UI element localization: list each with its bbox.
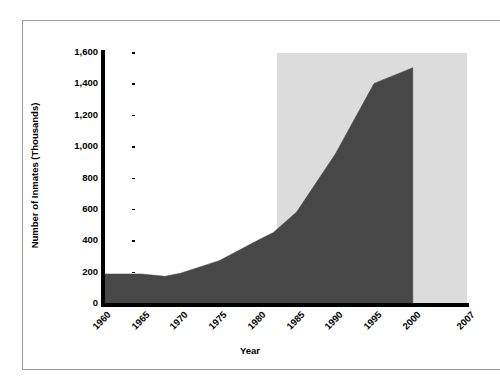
x-tick-label: 1975 (193, 309, 229, 345)
x-axis-title: Year (0, 345, 500, 356)
x-tick-label: 1985 (270, 309, 306, 345)
y-tick-mark (132, 303, 135, 305)
x-axis-line (101, 303, 469, 307)
y-axis-title: Number of Inmates (Thousands) (29, 76, 40, 276)
chart-figure: 02004006008001,0001,2001,4001,600 196019… (0, 0, 500, 377)
x-tick-label: 1970 (154, 309, 190, 345)
x-tick-label: 1995 (348, 309, 384, 345)
x-tick-label: 2007 (441, 309, 477, 345)
y-tick-mark (132, 83, 135, 85)
y-tick-mark (132, 115, 135, 117)
y-tick-label: 1,200 (38, 110, 98, 120)
y-tick-label: 600 (38, 204, 98, 214)
y-tick-mark (132, 209, 135, 211)
x-tick-label: 1990 (309, 309, 345, 345)
y-axis-line (101, 50, 105, 304)
y-tick-mark (132, 178, 135, 180)
y-tick-label: 400 (38, 235, 98, 245)
y-tick-mark (132, 240, 135, 242)
y-tick-label: 200 (38, 267, 98, 277)
y-tick-mark (132, 146, 135, 148)
y-tick-label: 1,600 (38, 47, 98, 57)
y-tick-label: 1,400 (38, 78, 98, 88)
x-tick-label: 1965 (115, 309, 151, 345)
y-tick-label: 800 (38, 173, 98, 183)
x-tick-label: 1980 (232, 309, 268, 345)
inmates-area-series (103, 52, 467, 303)
x-tick-label: 2000 (386, 309, 422, 345)
y-axis-tick-labels: 02004006008001,0001,2001,4001,600 (34, 0, 98, 377)
y-tick-mark (132, 52, 135, 54)
y-tick-mark (132, 272, 135, 274)
y-tick-label: 1,000 (38, 141, 98, 151)
y-tick-label: 0 (38, 298, 98, 308)
